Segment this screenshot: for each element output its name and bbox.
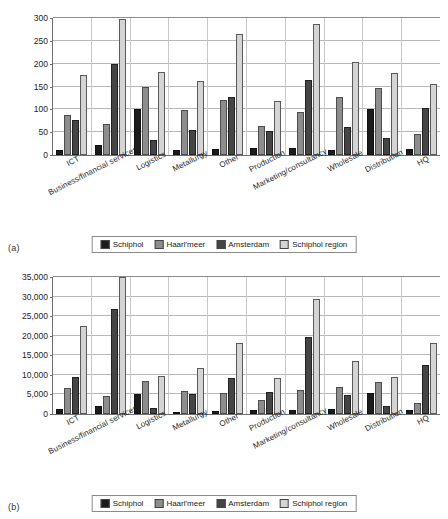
bar-group bbox=[402, 277, 440, 414]
plot-frame-a: 050100150200250300 bbox=[52, 18, 440, 156]
bar-group bbox=[92, 18, 131, 155]
legend-item: Schiphol bbox=[101, 499, 144, 508]
bar-group bbox=[208, 18, 247, 155]
legend-item: Amsterdam bbox=[216, 499, 269, 508]
bar bbox=[274, 101, 281, 155]
legend-swatch-icon bbox=[280, 240, 289, 249]
bar-groups-a bbox=[53, 18, 440, 155]
legend-item: Haarl'meer bbox=[154, 499, 205, 508]
bar bbox=[250, 410, 257, 414]
bar bbox=[414, 134, 421, 155]
bar bbox=[95, 145, 102, 155]
bar bbox=[313, 299, 320, 414]
legend-label: Amsterdam bbox=[228, 499, 269, 508]
legend-swatch-icon bbox=[101, 240, 110, 249]
bar-group bbox=[247, 18, 286, 155]
legend-label: Haarl'meer bbox=[166, 499, 205, 508]
y-axis-tick-label: 35,000 bbox=[22, 272, 53, 282]
bar bbox=[430, 84, 437, 155]
bar bbox=[313, 24, 320, 155]
bar-group bbox=[92, 277, 131, 414]
bar bbox=[336, 387, 343, 414]
bar bbox=[212, 411, 219, 414]
legend-label: Schiphol bbox=[113, 240, 144, 249]
x-axis-labels-a: ICTBusiness/financial servicesLogisticsM… bbox=[52, 157, 440, 217]
bar bbox=[375, 88, 382, 155]
legend-swatch-icon bbox=[216, 240, 225, 249]
bar bbox=[289, 148, 296, 155]
bar bbox=[297, 390, 304, 414]
bar-group bbox=[53, 18, 92, 155]
bar bbox=[220, 100, 227, 155]
bar bbox=[266, 131, 273, 155]
bar-group bbox=[402, 18, 440, 155]
bar bbox=[158, 72, 165, 155]
bar bbox=[258, 400, 265, 414]
x-axis-label: ICT bbox=[66, 154, 82, 168]
bar bbox=[189, 394, 196, 414]
bar bbox=[111, 309, 118, 414]
bar bbox=[375, 382, 382, 414]
bar-group bbox=[169, 18, 208, 155]
bar bbox=[305, 337, 312, 414]
y-axis-tick-mark bbox=[50, 155, 53, 156]
legend-label: Schiphol region bbox=[292, 499, 347, 508]
legend-item: Amsterdam bbox=[216, 240, 269, 249]
legend-swatch-icon bbox=[216, 499, 225, 508]
bar-group bbox=[247, 277, 286, 414]
bar bbox=[212, 149, 219, 155]
bar-groups-b bbox=[53, 277, 440, 414]
bar-group bbox=[325, 18, 364, 155]
bar bbox=[103, 124, 110, 155]
bar bbox=[80, 75, 87, 155]
legend-item: Schiphol region bbox=[280, 499, 347, 508]
bar bbox=[142, 87, 149, 156]
bar bbox=[344, 127, 351, 155]
bar-group bbox=[286, 18, 325, 155]
chart-panel-a: 050100150200250300 ICTBusiness/financial… bbox=[0, 0, 448, 259]
bar-group bbox=[363, 18, 402, 155]
panel-label-b: (b) bbox=[8, 502, 20, 512]
bar bbox=[142, 381, 149, 414]
legend-swatch-icon bbox=[101, 499, 110, 508]
bar bbox=[406, 149, 413, 155]
bar-group bbox=[286, 277, 325, 414]
bar bbox=[103, 396, 110, 414]
bar bbox=[56, 409, 63, 414]
panel-label-a: (a) bbox=[8, 243, 20, 253]
y-axis-tick-label: 15,000 bbox=[22, 350, 53, 360]
legend-swatch-icon bbox=[154, 499, 163, 508]
legend-label: Haarl'meer bbox=[166, 240, 205, 249]
bar bbox=[391, 73, 398, 155]
legend-item: Schiphol bbox=[101, 240, 144, 249]
bar bbox=[367, 393, 374, 414]
bar bbox=[228, 378, 235, 414]
bar bbox=[220, 393, 227, 414]
bar-group bbox=[208, 277, 247, 414]
legend-a: SchipholHaarl'meerAmsterdamSchiphol regi… bbox=[92, 236, 357, 253]
y-axis-tick-label: 10,000 bbox=[22, 370, 53, 380]
bar bbox=[181, 391, 188, 414]
x-axis-labels-b: ICTBusiness/financial servicesLogisticsM… bbox=[52, 416, 440, 476]
bar bbox=[173, 412, 180, 414]
bar bbox=[80, 326, 87, 414]
bar bbox=[119, 19, 126, 155]
x-axis-label: ICT bbox=[66, 413, 82, 427]
y-axis-tick-label: 30,000 bbox=[22, 292, 53, 302]
bar bbox=[414, 403, 421, 414]
bar bbox=[430, 343, 437, 414]
bar bbox=[336, 97, 343, 155]
bar-group bbox=[131, 18, 170, 155]
bar bbox=[367, 109, 374, 155]
bar bbox=[64, 388, 71, 414]
bar bbox=[72, 377, 79, 414]
bar bbox=[181, 110, 188, 155]
bar bbox=[173, 150, 180, 155]
y-axis-tick-mark bbox=[50, 414, 53, 415]
bar bbox=[56, 150, 63, 155]
legend-item: Haarl'meer bbox=[154, 240, 205, 249]
legend-label: Schiphol region bbox=[292, 240, 347, 249]
legend-swatch-icon bbox=[154, 240, 163, 249]
x-axis-label: HQ bbox=[415, 154, 430, 168]
plot-frame-b: 05,00010,00015,00020,00025,00030,00035,0… bbox=[52, 277, 440, 415]
